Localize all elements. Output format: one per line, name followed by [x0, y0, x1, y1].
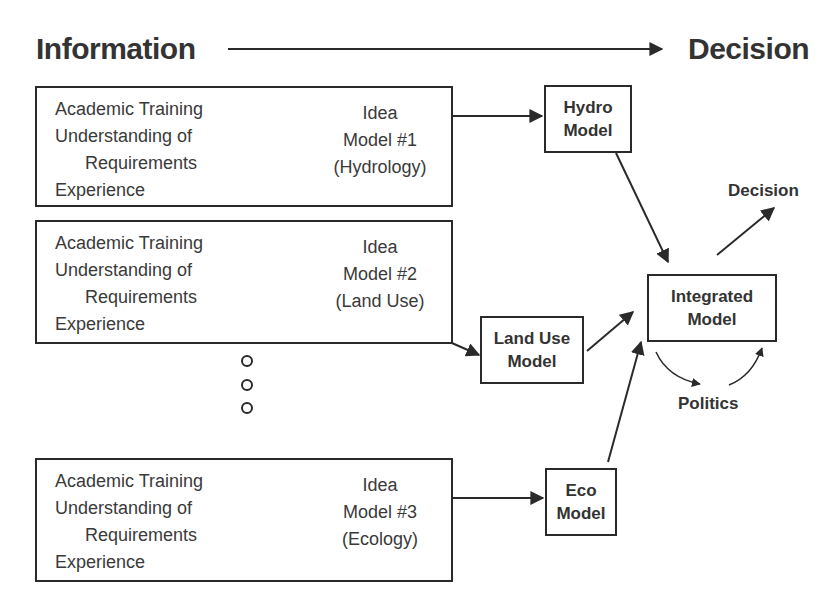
requirements-text: Requirements	[55, 150, 203, 177]
decision-label: Decision	[728, 181, 799, 201]
academic-training-text: Academic Training	[55, 468, 203, 495]
land-use-model-label: Land Use	[494, 327, 571, 350]
land-use-model-box: Land Use Model	[480, 316, 584, 384]
academic-training-text: Academic Training	[55, 96, 203, 123]
hydro-model-label: Hydro	[563, 96, 612, 119]
model-domain-text: (Land Use)	[315, 288, 445, 315]
land-use-model-label-2: Model	[507, 350, 556, 373]
requirements-box-ecology: Academic Training Understanding of Requi…	[35, 458, 453, 582]
requirements-list: Academic Training Understanding of Requi…	[55, 230, 203, 338]
idea-model-land-use: Idea Model #2 (Land Use)	[315, 234, 445, 315]
model-domain-text: (Hydrology)	[315, 154, 445, 181]
ellipsis-dot	[241, 355, 253, 367]
eco-model-label-2: Model	[556, 502, 605, 525]
experience-text: Experience	[55, 549, 203, 576]
understanding-text: Understanding of	[55, 257, 203, 284]
ellipsis-dot	[241, 402, 253, 414]
requirements-list: Academic Training Understanding of Requi…	[55, 468, 203, 576]
understanding-text: Understanding of	[55, 495, 203, 522]
requirements-text: Requirements	[55, 284, 203, 311]
experience-text: Experience	[55, 311, 203, 338]
integrated-model-label-2: Model	[687, 308, 736, 331]
eco-model-box: Eco Model	[545, 468, 617, 536]
idea-model-ecology: Idea Model #3 (Ecology)	[315, 472, 445, 553]
model-domain-text: (Ecology)	[315, 526, 445, 553]
idea-text: Idea	[315, 234, 445, 261]
idea-model-hydrology: Idea Model #1 (Hydrology)	[315, 100, 445, 181]
hydro-model-box: Hydro Model	[544, 85, 632, 153]
politics-label: Politics	[678, 394, 738, 414]
model-number-text: Model #1	[315, 127, 445, 154]
ellipsis-dot	[241, 379, 253, 391]
requirements-text: Requirements	[55, 522, 203, 549]
experience-text: Experience	[55, 177, 203, 204]
idea-text: Idea	[315, 472, 445, 499]
requirements-box-hydrology: Academic Training Understanding of Requi…	[35, 86, 453, 207]
understanding-text: Understanding of	[55, 123, 203, 150]
academic-training-text: Academic Training	[55, 230, 203, 257]
requirements-list: Academic Training Understanding of Requi…	[55, 96, 203, 204]
integrated-model-label: Integrated	[671, 285, 753, 308]
information-header: Information	[36, 32, 196, 66]
idea-text: Idea	[315, 100, 445, 127]
requirements-box-land-use: Academic Training Understanding of Requi…	[35, 220, 453, 344]
integrated-model-box: Integrated Model	[647, 274, 777, 342]
model-number-text: Model #3	[315, 499, 445, 526]
hydro-model-label-2: Model	[563, 119, 612, 142]
model-number-text: Model #2	[315, 261, 445, 288]
decision-header: Decision	[688, 32, 809, 66]
eco-model-label: Eco	[565, 479, 596, 502]
